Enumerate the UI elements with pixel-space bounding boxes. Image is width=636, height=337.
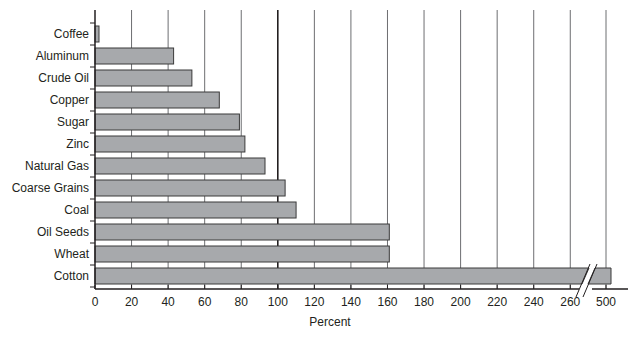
x-tick-label: 200 bbox=[451, 295, 471, 309]
bar-wheat bbox=[95, 246, 389, 262]
category-label: Crude Oil bbox=[38, 71, 89, 85]
bar-crude-oil bbox=[95, 70, 192, 86]
bar-sugar bbox=[95, 114, 239, 130]
category-label: Natural Gas bbox=[25, 159, 89, 173]
x-tick-label: 160 bbox=[377, 295, 397, 309]
bar-aluminum bbox=[95, 48, 174, 64]
x-tick-label: 60 bbox=[198, 295, 212, 309]
category-label: Aluminum bbox=[36, 49, 89, 63]
bar-cotton bbox=[95, 268, 589, 284]
category-label: Oil Seeds bbox=[37, 225, 89, 239]
x-tick-label: 40 bbox=[161, 295, 175, 309]
x-tick-label: 500 bbox=[596, 295, 616, 309]
bar-copper bbox=[95, 92, 219, 108]
bar-oil-seeds bbox=[95, 224, 389, 240]
category-label: Copper bbox=[50, 93, 89, 107]
x-tick-label: 120 bbox=[304, 295, 324, 309]
category-label: Coarse Grains bbox=[12, 181, 89, 195]
category-label: Sugar bbox=[57, 115, 89, 129]
category-label: Cotton bbox=[54, 269, 89, 283]
category-label: Zinc bbox=[66, 137, 89, 151]
bar-coal bbox=[95, 202, 296, 218]
x-tick-label: 0 bbox=[92, 295, 99, 309]
category-label: Wheat bbox=[54, 247, 89, 261]
category-label: Coffee bbox=[54, 27, 89, 41]
x-axis-label: Percent bbox=[309, 315, 351, 329]
category-label: Coal bbox=[64, 203, 89, 217]
bar-coarse-grains bbox=[95, 180, 285, 196]
x-tick-label: 20 bbox=[125, 295, 139, 309]
x-tick-label: 140 bbox=[341, 295, 361, 309]
x-tick-label: 80 bbox=[235, 295, 249, 309]
x-tick-label: 220 bbox=[487, 295, 507, 309]
x-tick-label: 240 bbox=[524, 295, 544, 309]
y-axis: CoffeeAluminumCrude OilCopperSugarZincNa… bbox=[12, 10, 95, 289]
horizontal-bar-chart: CoffeeAluminumCrude OilCopperSugarZincNa… bbox=[0, 0, 636, 337]
x-tick-label: 100 bbox=[268, 295, 288, 309]
x-tick-label: 180 bbox=[414, 295, 434, 309]
bar-natural-gas bbox=[95, 158, 265, 174]
bar-zinc bbox=[95, 136, 245, 152]
x-tick-label: 260 bbox=[560, 295, 580, 309]
